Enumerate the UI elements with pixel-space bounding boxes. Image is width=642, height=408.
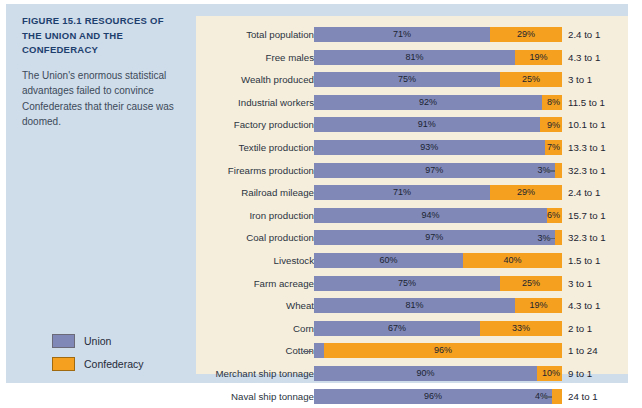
bar-value-confederacy: 40% bbox=[503, 256, 521, 265]
bar-segment-confederacy bbox=[555, 163, 562, 178]
bar-value-confederacy: 19% bbox=[529, 301, 547, 310]
row-ratio-label: 3 to 1 bbox=[568, 278, 592, 289]
figure-number: FIGURE 15.1 bbox=[22, 15, 82, 26]
bar-segment-confederacy: 6% bbox=[547, 208, 562, 223]
stacked-bar: 94%6% bbox=[314, 208, 562, 223]
bar-value-union: 97% bbox=[425, 166, 443, 175]
bar-segment-confederacy: 25% bbox=[500, 72, 562, 87]
bar-segment-union: 71% bbox=[314, 27, 490, 42]
row-category-label: Railroad mileage bbox=[114, 187, 314, 198]
bar-value-union: 71% bbox=[393, 188, 411, 197]
row-ratio-label: 32.3 to 1 bbox=[568, 165, 606, 176]
chart-row: Cotton4%96%1 to 24 bbox=[196, 341, 628, 364]
bar-value-union: 92% bbox=[419, 98, 437, 107]
bar-segment-confederacy bbox=[555, 230, 562, 245]
row-ratio-label: 15.7 to 1 bbox=[568, 210, 606, 221]
bar-segment-confederacy: 19% bbox=[515, 50, 562, 65]
legend-swatch-icon-union bbox=[52, 334, 75, 348]
row-category-label: Cotton bbox=[114, 345, 314, 356]
legend-label-union: Union bbox=[84, 335, 111, 347]
bar-segment-union: 4% bbox=[314, 343, 324, 358]
bar-segment-union: 96%4% bbox=[314, 389, 552, 404]
row-category-label: Wheat bbox=[114, 300, 314, 311]
stacked-bar: 75%25% bbox=[314, 276, 562, 291]
bar-value-confederacy: 8% bbox=[547, 98, 560, 107]
bar-value-union: 93% bbox=[420, 143, 438, 152]
bar-segment-confederacy: 10% bbox=[537, 366, 562, 381]
row-category-label: Farm acreage bbox=[114, 278, 314, 289]
row-category-label: Iron production bbox=[114, 210, 314, 221]
bar-segment-union: 93% bbox=[314, 140, 545, 155]
bar-segment-confederacy: 9% bbox=[540, 117, 562, 132]
bar-value-confederacy: 10% bbox=[542, 369, 560, 378]
bar-value-union: 94% bbox=[422, 211, 440, 220]
bar-segment-union: 75% bbox=[314, 276, 500, 291]
bar-value-confederacy: 33% bbox=[512, 324, 530, 333]
leader-dash-icon bbox=[543, 396, 552, 398]
bar-segment-confederacy: 25% bbox=[500, 276, 562, 291]
bar-value-union: 81% bbox=[405, 53, 423, 62]
stacked-bar: 75%25% bbox=[314, 72, 562, 87]
leader-dash-icon bbox=[546, 238, 555, 240]
bar-segment-confederacy: 40% bbox=[463, 253, 562, 268]
chart-row: Coal production97%3%32.3 to 1 bbox=[196, 228, 628, 251]
row-category-label: Textile production bbox=[114, 142, 314, 153]
chart-row: Wealth produced75%25%3 to 1 bbox=[196, 70, 628, 93]
stacked-bar: 81%19% bbox=[314, 298, 562, 313]
bar-segment-union: 94% bbox=[314, 208, 547, 223]
row-ratio-label: 9 to 1 bbox=[568, 368, 592, 379]
bar-value-confederacy: 96% bbox=[434, 346, 452, 355]
stacked-bar: 90%10% bbox=[314, 366, 562, 381]
chart-row: Corn67%33%2 to 1 bbox=[196, 319, 628, 342]
chart-row: Free males81%19%4.3 to 1 bbox=[196, 48, 628, 71]
bar-value-union: 96% bbox=[424, 392, 442, 401]
row-category-label: Corn bbox=[114, 323, 314, 334]
stacked-bar: 91%9% bbox=[314, 117, 562, 132]
chart-row: Farm acreage75%25%3 to 1 bbox=[196, 274, 628, 297]
row-ratio-label: 32.3 to 1 bbox=[568, 232, 606, 243]
chart-panel: Total population71%29%2.4 to 1Free males… bbox=[196, 16, 628, 374]
bar-segment-union: 97%3% bbox=[314, 163, 555, 178]
row-ratio-label: 10.1 to 1 bbox=[568, 119, 606, 130]
row-category-label: Factory production bbox=[114, 119, 314, 130]
row-ratio-label: 4.3 to 1 bbox=[568, 52, 600, 63]
legend-swatch-icon-confederacy bbox=[52, 357, 75, 371]
bar-segment-confederacy: 7% bbox=[545, 140, 562, 155]
row-category-label: Coal production bbox=[114, 232, 314, 243]
stacked-bar: 4%96% bbox=[314, 343, 562, 358]
bar-value-union: 60% bbox=[379, 256, 397, 265]
bar-segment-union: 67% bbox=[314, 321, 480, 336]
leader-dash-icon bbox=[303, 351, 312, 353]
chart-row: Factory production91%9%10.1 to 1 bbox=[196, 115, 628, 138]
chart-row: Livestock60%40%1.5 to 1 bbox=[196, 251, 628, 274]
row-category-label: Merchant ship tonnage bbox=[114, 368, 314, 379]
bar-segment-confederacy: 8% bbox=[542, 95, 562, 110]
bar-value-confederacy: 19% bbox=[529, 53, 547, 62]
bar-segment-confederacy: 96% bbox=[324, 343, 562, 358]
figure-container: FIGURE 15.1 RESOURCES OF THE UNION AND T… bbox=[6, 4, 628, 383]
stacked-bar: 81%19% bbox=[314, 50, 562, 65]
row-ratio-label: 11.5 to 1 bbox=[568, 97, 605, 108]
chart-row: Wheat81%19%4.3 to 1 bbox=[196, 296, 628, 319]
row-ratio-label: 2.4 to 1 bbox=[568, 29, 600, 40]
bar-value-confederacy: 7% bbox=[547, 143, 560, 152]
chart-row: Firearms production97%3%32.3 to 1 bbox=[196, 161, 628, 184]
row-ratio-label: 1.5 to 1 bbox=[568, 255, 600, 266]
row-ratio-label: 4.3 to 1 bbox=[568, 300, 600, 311]
row-ratio-label: 13.3 to 1 bbox=[568, 142, 606, 153]
bar-value-confederacy: 6% bbox=[547, 211, 560, 220]
bar-value-union: 91% bbox=[418, 120, 436, 129]
row-category-label: Wealth produced bbox=[114, 74, 314, 85]
leader-dash-icon bbox=[546, 170, 555, 172]
bar-segment-confederacy: 29% bbox=[490, 27, 562, 42]
stacked-bar: 92%8% bbox=[314, 95, 562, 110]
bar-value-confederacy: 29% bbox=[517, 188, 535, 197]
bar-value-union: 90% bbox=[417, 369, 435, 378]
row-category-label: Firearms production bbox=[114, 165, 314, 176]
stacked-bar: 93%7% bbox=[314, 140, 562, 155]
row-ratio-label: 1 to 24 bbox=[568, 345, 598, 356]
stacked-bar: 97%3% bbox=[314, 230, 562, 245]
chart-row: Railroad mileage71%29%2.4 to 1 bbox=[196, 183, 628, 206]
chart-row: Iron production94%6%15.7 to 1 bbox=[196, 206, 628, 229]
bar-segment-union: 75% bbox=[314, 72, 500, 87]
